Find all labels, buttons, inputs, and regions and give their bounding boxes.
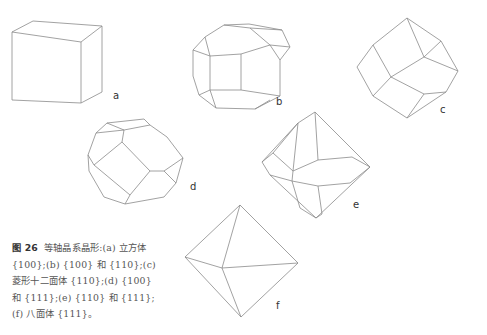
label-a: a: [113, 90, 119, 101]
figure-number: 图 26: [12, 242, 38, 253]
caption-text: 等轴晶系晶形:(a) 立方体 {100};(b) {100} 和 {110};(…: [12, 242, 156, 319]
label-e: e: [353, 199, 359, 210]
crystal-a-cube: [12, 21, 102, 103]
crystal-f-octahedron: [185, 205, 298, 317]
crystal-d-cube-octahedron: [88, 119, 183, 204]
label-c: c: [440, 104, 446, 115]
label-b: b: [276, 96, 282, 107]
label-d: d: [190, 181, 196, 192]
label-f: f: [276, 300, 280, 311]
figure-caption: 图 26等轴晶系晶形:(a) 立方体 {100};(b) {100} 和 {11…: [12, 240, 164, 323]
crystal-c-rhombic-dodecahedron: [357, 18, 458, 118]
